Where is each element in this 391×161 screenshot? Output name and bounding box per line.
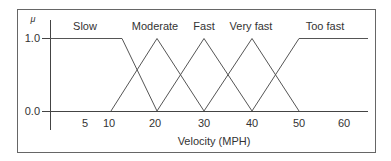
series-moderate — [111, 39, 204, 112]
x-tick-10: 10 — [103, 117, 115, 129]
series-very-fast — [204, 39, 299, 112]
y-axis-symbol: μ — [30, 14, 36, 24]
series-too-fast — [252, 39, 368, 112]
series-label-moderate: Moderate — [132, 20, 178, 32]
y-label-bottom: 0.0 — [25, 105, 40, 117]
x-tick-50: 50 — [293, 117, 305, 129]
series-label-fast: Fast — [193, 20, 214, 32]
series-slow — [50, 39, 157, 112]
y-label-top: 1.0 — [25, 32, 40, 44]
membership-lines — [50, 39, 368, 112]
series-label-too-fast: Too fast — [306, 20, 345, 32]
x-tick-40: 40 — [246, 117, 258, 129]
x-tick-30: 30 — [198, 117, 210, 129]
x-axis-title: Velocity (MPH) — [178, 135, 251, 147]
series-label-slow: Slow — [73, 20, 97, 32]
membership-function-chart: μ 1.0 0.0 Slow Moderate Fast Very fast T… — [0, 0, 391, 161]
x-tick-5: 5 — [82, 117, 88, 129]
x-tick-60: 60 — [338, 117, 350, 129]
series-label-very-fast: Very fast — [230, 20, 273, 32]
x-tick-20: 20 — [149, 117, 161, 129]
series-fast — [157, 39, 252, 112]
